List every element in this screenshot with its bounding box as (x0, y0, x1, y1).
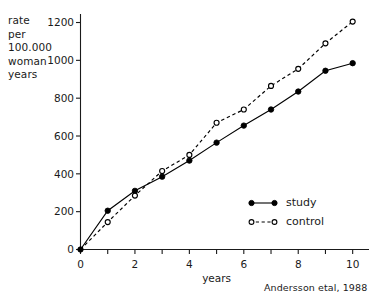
chart-legend: study control (248, 193, 358, 231)
data-point-control (241, 107, 246, 112)
data-point-control (105, 220, 110, 225)
legend-key-study (248, 197, 278, 209)
source-caption: Andersson etal, 1988 (264, 282, 367, 293)
data-point-control (187, 152, 192, 157)
data-point-control (132, 193, 137, 198)
data-point-study (159, 174, 164, 179)
data-point-control (350, 19, 355, 24)
plot-area (0, 0, 389, 305)
legend-key-control (248, 216, 278, 228)
chart-figure: rate per 100.000 woman years 02004006008… (0, 0, 389, 305)
data-point-control (296, 66, 301, 71)
data-point-study (268, 107, 273, 112)
legend-item-study: study (248, 193, 358, 212)
data-point-study (241, 123, 246, 128)
legend-label-study: study (286, 197, 317, 209)
legend-label-control: control (286, 216, 324, 228)
legend-item-control: control (248, 212, 358, 231)
data-point-study (296, 89, 301, 94)
data-point-control (323, 41, 328, 46)
data-point-study (187, 158, 192, 163)
data-point-control (214, 120, 219, 125)
data-point-control (269, 83, 274, 88)
data-point-study (214, 140, 219, 145)
data-point-control (160, 169, 165, 174)
data-point-study (323, 68, 328, 73)
data-point-study (105, 208, 110, 213)
data-point-study (350, 60, 355, 65)
